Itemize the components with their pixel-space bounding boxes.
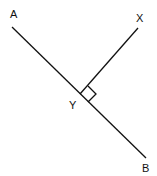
- geometry-diagram: A X Y B: [0, 0, 157, 176]
- label-b: B: [142, 162, 149, 174]
- label-a: A: [10, 8, 18, 20]
- right-angle-marker: [88, 86, 96, 102]
- label-x: X: [136, 12, 144, 24]
- label-y: Y: [69, 99, 77, 111]
- line-ab: [12, 27, 146, 158]
- line-yx: [80, 28, 138, 94]
